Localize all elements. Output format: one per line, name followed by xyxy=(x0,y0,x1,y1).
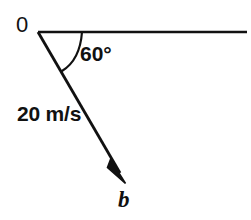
endpoint-label: b xyxy=(118,188,130,211)
angle-label: 60° xyxy=(80,43,112,64)
speed-label: 20 m/s xyxy=(17,103,81,124)
arrowhead-icon xyxy=(108,160,126,184)
origin-label: 0 xyxy=(16,14,28,36)
vector-diagram-figure: 0 60° 20 m/s b xyxy=(0,0,251,220)
angle-arc-icon xyxy=(62,32,82,71)
